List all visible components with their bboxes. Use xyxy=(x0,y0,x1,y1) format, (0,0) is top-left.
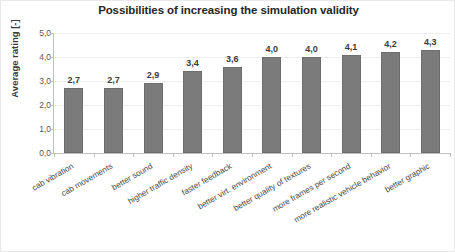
y-axis-tick xyxy=(50,129,54,130)
x-axis-tick xyxy=(371,153,372,157)
x-axis-category-label: more realistic vehicle behavior xyxy=(214,162,392,252)
bar-value-label: 2,7 xyxy=(93,75,133,85)
gridline xyxy=(54,33,450,34)
bar-value-label: 3,4 xyxy=(173,58,213,68)
chart-title: Possibilities of increasing the simulati… xyxy=(1,4,455,16)
x-axis-tick xyxy=(331,153,332,157)
x-axis-category-label: better graphic xyxy=(254,162,432,252)
bar-chart: Possibilities of increasing the simulati… xyxy=(0,0,455,252)
bar-value-label: 4,1 xyxy=(331,42,371,52)
bar xyxy=(104,88,123,153)
x-axis-tick xyxy=(94,153,95,157)
bar xyxy=(262,57,281,153)
bar xyxy=(421,50,440,153)
bar xyxy=(342,55,361,153)
bar xyxy=(223,67,242,153)
bar-value-label: 2,7 xyxy=(54,75,94,85)
x-axis-tick xyxy=(252,153,253,157)
x-axis-category-label: more frames per second xyxy=(175,162,353,252)
x-axis-tick xyxy=(450,153,451,157)
y-axis-tick-label: 2,0 xyxy=(21,100,51,110)
x-axis-tick xyxy=(173,153,174,157)
bar xyxy=(302,57,321,153)
bar-value-label: 2,9 xyxy=(133,70,173,80)
bar-value-label: 4,0 xyxy=(291,44,331,54)
bar-value-label: 4,0 xyxy=(252,44,292,54)
bar-value-label: 4,3 xyxy=(410,37,450,47)
bar xyxy=(64,88,83,153)
bar xyxy=(144,83,163,153)
x-axis-category-label: better virt. environment xyxy=(95,162,273,252)
bar xyxy=(381,52,400,153)
y-axis-tick-label: 0,0 xyxy=(21,148,51,158)
y-axis-tick-label: 5,0 xyxy=(21,28,51,38)
x-axis-category-label: better quality of textures xyxy=(135,162,313,252)
x-axis-tick xyxy=(133,153,134,157)
y-axis-tick xyxy=(50,33,54,34)
y-axis-tick xyxy=(50,57,54,58)
x-axis-tick xyxy=(54,153,55,157)
y-axis-tick-label: 4,0 xyxy=(21,52,51,62)
y-axis-tick-label: 3,0 xyxy=(21,76,51,86)
bar xyxy=(183,71,202,153)
x-axis-category-label: faster feedback xyxy=(56,162,234,252)
y-axis-tick xyxy=(50,105,54,106)
x-axis-tick xyxy=(410,153,411,157)
y-axis-tick-labels: 0,01,02,03,04,05,0 xyxy=(17,1,51,252)
x-axis-tick xyxy=(292,153,293,157)
plot-area: 2,72,72,93,43,64,04,04,14,24,3 xyxy=(53,33,450,154)
bar-value-label: 4,2 xyxy=(371,39,411,49)
x-axis-tick xyxy=(212,153,213,157)
bar-value-label: 3,6 xyxy=(212,54,252,64)
y-axis-tick-label: 1,0 xyxy=(21,124,51,134)
